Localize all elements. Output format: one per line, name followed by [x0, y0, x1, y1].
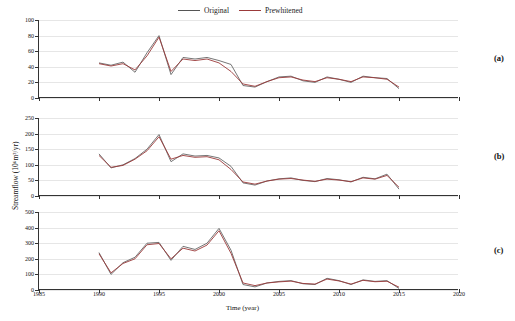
y-tick-label: 50: [28, 177, 34, 183]
series-line-prewhitened: [99, 37, 399, 87]
y-tick-label: 100: [25, 271, 34, 277]
x-tick-label: 2000: [213, 291, 225, 297]
legend-swatch-prewhitened: [239, 10, 261, 11]
x-tick-label: 1985: [33, 291, 45, 297]
legend-item-original: Original: [178, 6, 229, 15]
x-tick-label: 1990: [93, 291, 105, 297]
y-tick-label: 300: [25, 240, 34, 246]
y-tick-label: 500: [25, 209, 34, 215]
plot-area: 050100150200250: [38, 118, 458, 196]
y-tick-label: 40: [28, 64, 34, 70]
y-tick-label: 20: [28, 79, 34, 85]
legend-label-original: Original: [204, 6, 229, 15]
y-tick-label: 200: [25, 256, 34, 262]
chart-panel-c: 0100200300400500198519901995200020052010…: [38, 212, 458, 290]
chart-panel-a: 020406080100(a): [38, 20, 458, 98]
y-tick-label: 0: [31, 95, 34, 101]
gridline: [39, 196, 458, 197]
plot-area: 0100200300400500198519901995200020052010…: [38, 212, 458, 290]
x-tick-mark: [459, 195, 460, 199]
series-layer: [39, 212, 459, 290]
x-tick-label: 1995: [153, 291, 165, 297]
y-tick-label: 60: [28, 48, 34, 54]
chart-figure: Original Prewhitened Streamflow (10⁶m³/y…: [0, 0, 515, 321]
series-line-prewhitened: [99, 231, 399, 287]
x-tick-mark: [459, 97, 460, 101]
y-tick-label: 400: [25, 225, 34, 231]
y-tick-label: 0: [31, 193, 34, 199]
series-layer: [39, 20, 459, 98]
gridline: [39, 98, 458, 99]
series-layer: [39, 118, 459, 196]
legend-swatch-original: [178, 10, 200, 11]
chart-panel-b: 050100150200250(b): [38, 118, 458, 196]
y-tick-label: 200: [25, 131, 34, 137]
chart-legend: Original Prewhitened: [178, 6, 303, 15]
y-tick-label: 250: [25, 115, 34, 121]
x-tick-label: 2020: [453, 291, 465, 297]
legend-label-prewhitened: Prewhitened: [265, 6, 303, 15]
y-tick-label: 100: [25, 162, 34, 168]
x-tick-label: 2015: [393, 291, 405, 297]
y-tick-label: 80: [28, 33, 34, 39]
panel-tag: (b): [494, 151, 504, 161]
legend-item-prewhitened: Prewhitened: [239, 6, 303, 15]
y-tick-label: 150: [25, 146, 34, 152]
series-line-original: [99, 228, 399, 288]
x-tick-label: 2005: [273, 291, 285, 297]
plot-area: 020406080100: [38, 20, 458, 98]
series-line-prewhitened: [99, 137, 399, 188]
y-tick-label: 100: [25, 17, 34, 23]
x-axis-label: Time (year): [226, 304, 259, 312]
panel-tag: (c): [494, 245, 503, 255]
y-axis-label: Streamflow (10⁶m³/yr): [11, 198, 20, 210]
x-tick-label: 2010: [333, 291, 345, 297]
panel-tag: (a): [494, 53, 504, 63]
